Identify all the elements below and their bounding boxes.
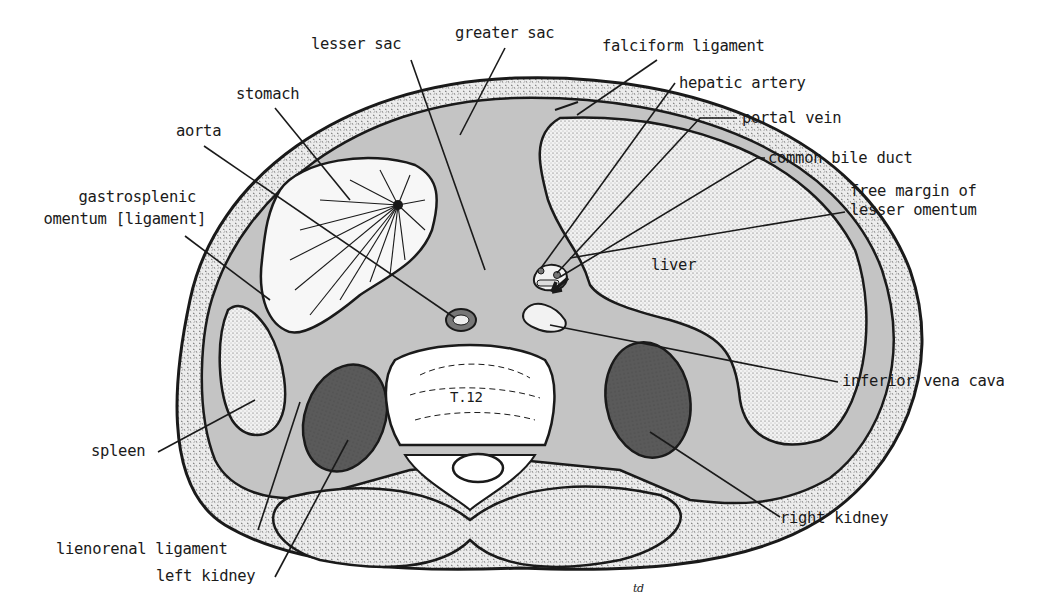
label-aorta: aorta <box>176 123 221 140</box>
label-spleen: spleen <box>91 443 145 460</box>
label-right-kidney: right kidney <box>780 510 888 527</box>
signature: td <box>633 580 644 597</box>
label-common-bile-duct: common bile duct <box>768 150 913 167</box>
vertebra-label: T.12 <box>450 389 483 406</box>
label-stomach: stomach <box>236 86 299 103</box>
label-free-margin-line1: free margin of <box>850 183 976 200</box>
label-hepatic-artery: hepatic artery <box>679 75 805 92</box>
label-lienorenal-ligament: lienorenal ligament <box>56 541 228 558</box>
label-left-kidney: left kidney <box>156 568 255 585</box>
label-lesser-sac: lesser sac <box>311 36 401 53</box>
label-inferior-vena-cava: inferior vena cava <box>842 373 1005 390</box>
label-falciform-ligament: falciform ligament <box>602 38 765 55</box>
label-greater-sac: greater sac <box>455 25 554 42</box>
label-gastrosplenic-line2: omentum [ligament] <box>14 211 206 228</box>
liver-label: liver <box>651 257 696 274</box>
label-portal-vein: portal vein <box>742 110 841 127</box>
label-free-margin-line2: lesser omentum <box>850 202 976 219</box>
anatomy-diagram: T.12 liver td lesser sac greater sac fal… <box>0 0 1043 607</box>
label-gastrosplenic-line1: gastrosplenic <box>62 189 196 206</box>
